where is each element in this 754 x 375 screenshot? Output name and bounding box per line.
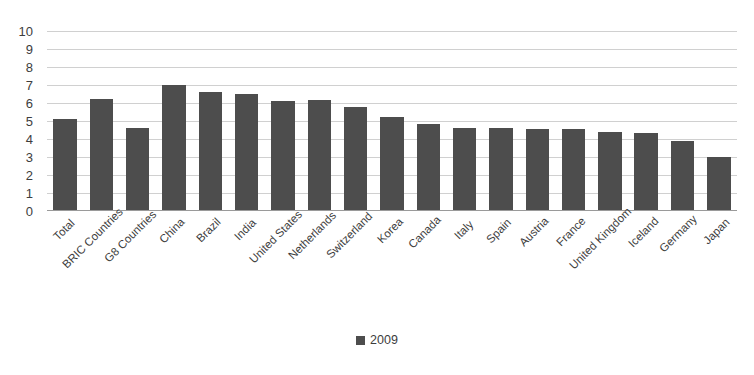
bar[interactable]: [271, 101, 294, 211]
bar[interactable]: [53, 119, 76, 211]
x-axis-tick-label: Germany: [657, 212, 699, 254]
x-axis-tick-label: Korea: [375, 216, 405, 246]
plot-area: [47, 31, 737, 211]
y-axis-tick-label: 2: [0, 169, 33, 182]
bar-slot: [199, 31, 222, 211]
bar-slot: [417, 31, 440, 211]
y-axis-tick-label: 1: [0, 187, 33, 200]
bar-slot: [526, 31, 549, 211]
bar[interactable]: [90, 99, 113, 211]
bar[interactable]: [199, 92, 222, 211]
bar-slot: [90, 31, 113, 211]
bar-slot: [344, 31, 367, 211]
x-axis-tick-label: BRIC Countries: [60, 205, 125, 270]
y-axis-labels: 012345678910: [0, 0, 42, 375]
bar[interactable]: [453, 128, 476, 211]
bar-chart: 012345678910 TotalBRIC CountriesG8 Count…: [0, 0, 754, 375]
bar[interactable]: [162, 85, 185, 211]
x-axis-tick-label: India: [232, 217, 258, 243]
x-axis-tick-label: Canada: [406, 214, 443, 251]
bar[interactable]: [707, 157, 730, 211]
y-axis-tick-label: 7: [0, 79, 33, 92]
bar-slot: [53, 31, 76, 211]
bar-slot: [308, 31, 331, 211]
bar-slot: [126, 31, 149, 211]
bar-slot: [235, 31, 258, 211]
bar[interactable]: [344, 107, 367, 211]
y-axis-tick-label: 4: [0, 133, 33, 146]
x-axis-tick-label: United Kingdom: [567, 205, 633, 271]
bar[interactable]: [380, 117, 403, 211]
bar-slot: [634, 31, 657, 211]
y-axis-tick-label: 10: [0, 25, 33, 38]
bar[interactable]: [671, 141, 694, 211]
x-axis-tick-label: France: [554, 215, 588, 249]
x-axis-tick-label: Spain: [484, 216, 513, 245]
bar-slot: [562, 31, 585, 211]
legend-label-2009: 2009: [370, 334, 398, 347]
bar[interactable]: [598, 132, 621, 211]
x-axis-tick-label: Total: [51, 217, 77, 243]
bar-slot: [489, 31, 512, 211]
bar[interactable]: [526, 129, 549, 211]
x-axis-tick-label: China: [157, 216, 187, 246]
bar[interactable]: [417, 124, 440, 211]
bar-slot: [271, 31, 294, 211]
x-axis-labels: TotalBRIC CountriesG8 CountriesChinaBraz…: [0, 213, 754, 308]
y-axis-tick-label: 6: [0, 97, 33, 110]
bar-slot: [453, 31, 476, 211]
y-axis-tick-label: 8: [0, 61, 33, 74]
bar-slot: [598, 31, 621, 211]
y-axis-tick-label: 3: [0, 151, 33, 164]
bar-slot: [162, 31, 185, 211]
bar[interactable]: [126, 128, 149, 211]
x-axis-tick-label: Austria: [517, 215, 551, 249]
bar-series-2009: [47, 31, 737, 211]
x-axis-tick-label: Japan: [701, 215, 732, 246]
bar-slot: [380, 31, 403, 211]
x-axis-tick-label: Brazil: [194, 216, 223, 245]
bar[interactable]: [308, 100, 331, 211]
bar-slot: [707, 31, 730, 211]
x-axis-tick-label: Italy: [452, 218, 475, 241]
chart-legend: 2009: [0, 334, 754, 347]
legend-swatch-2009: [356, 336, 365, 345]
y-axis-tick-label: 9: [0, 43, 33, 56]
y-axis-tick-label: 5: [0, 115, 33, 128]
bar[interactable]: [235, 94, 258, 211]
bar[interactable]: [634, 133, 657, 211]
bar[interactable]: [562, 129, 585, 211]
bar[interactable]: [489, 128, 512, 211]
x-axis-tick-label: Iceland: [626, 214, 661, 249]
bar-slot: [671, 31, 694, 211]
